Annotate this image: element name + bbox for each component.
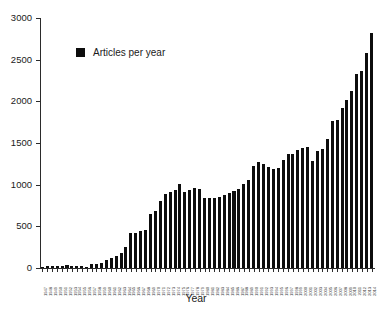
bar (124, 247, 127, 268)
x-axis-title: Year (0, 292, 392, 304)
bar (291, 154, 294, 268)
bar (321, 149, 324, 268)
y-axis-tick (36, 60, 40, 61)
bar (129, 233, 132, 268)
bar (174, 190, 177, 268)
bar (365, 53, 368, 268)
bar (277, 168, 280, 268)
bar (355, 74, 358, 268)
bar (139, 231, 142, 268)
legend-label: Articles per year (93, 47, 165, 58)
x-axis-labels: 1947194819491950195119521953195419551956… (40, 272, 374, 288)
bar (188, 190, 191, 268)
y-axis-tick-label: 3000 (11, 12, 32, 23)
y-axis-tick-label: 2500 (11, 54, 32, 65)
y-axis-tick-label: 2000 (11, 95, 32, 106)
y-axis-tick-label: 500 (16, 220, 32, 231)
bar (262, 164, 265, 268)
bar (154, 211, 157, 268)
bar (247, 180, 250, 268)
bar (242, 184, 245, 268)
bar (193, 188, 196, 268)
bar (183, 192, 186, 268)
bar (252, 166, 255, 268)
bar (232, 191, 235, 269)
bar (336, 120, 339, 268)
y-axis-labels: 050010001500200025003000 (0, 18, 36, 268)
bar (218, 197, 221, 268)
bar (272, 169, 275, 268)
chart-container: 050010001500200025003000 194719481949195… (0, 0, 392, 318)
bar (149, 214, 152, 268)
bar (159, 201, 162, 269)
bar (198, 189, 201, 268)
bar (296, 150, 299, 268)
bar (134, 233, 137, 268)
y-axis-tick-label: 0 (27, 262, 32, 273)
y-axis-tick-label: 1000 (11, 179, 32, 190)
bar (331, 121, 334, 268)
bar (120, 253, 123, 268)
bar (370, 33, 373, 268)
bar (306, 147, 309, 268)
bar (326, 139, 329, 268)
bar (213, 198, 216, 268)
bar (169, 192, 172, 268)
bar (257, 162, 260, 268)
bar (164, 194, 167, 268)
bar (228, 193, 231, 268)
y-axis-tick-label: 1500 (11, 137, 32, 148)
bar (237, 189, 240, 268)
bar (341, 108, 344, 268)
legend-swatch-icon (76, 48, 85, 57)
bar (282, 160, 285, 268)
bar (311, 161, 314, 269)
y-axis-tick (36, 101, 40, 102)
bar (350, 91, 353, 268)
bar (316, 151, 319, 268)
bar (115, 256, 118, 268)
bar (301, 148, 304, 268)
bar (345, 100, 348, 268)
y-axis-tick (36, 226, 40, 227)
bar (203, 198, 206, 268)
y-axis-tick (36, 18, 40, 19)
bar (105, 260, 108, 268)
bar (223, 195, 226, 268)
chart-legend: Articles per year (76, 47, 165, 58)
bar (144, 230, 147, 268)
y-axis-tick (36, 143, 40, 144)
bar (287, 154, 290, 268)
bar (360, 71, 363, 268)
bar (110, 258, 113, 268)
bar (178, 184, 181, 268)
bar (267, 167, 270, 268)
bar (208, 198, 211, 268)
y-axis-tick (36, 185, 40, 186)
